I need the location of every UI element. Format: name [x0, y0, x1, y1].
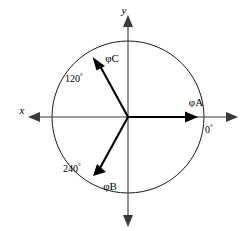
- phasor-phase-c-angle: 120°: [65, 72, 83, 84]
- degree-symbol-c: °: [80, 72, 83, 80]
- y-axis-top-arrowhead: [123, 15, 133, 27]
- x-axis-left-arrowhead: [28, 112, 40, 122]
- phasor-phase-b-label: φB: [103, 180, 117, 192]
- x-axis-right-arrowhead: [226, 112, 238, 122]
- phasor-phase-b-angle-value: 240: [63, 163, 78, 174]
- degree-symbol-b: °: [78, 162, 81, 170]
- phasor-phase-c-line: [100, 65, 129, 117]
- phasor-diagram: x y φA 0° φC 120° φB 240°: [0, 0, 240, 231]
- phasor-phase-a: φA 0°: [128, 96, 213, 135]
- phasor-phase-c: φC 120°: [65, 52, 128, 117]
- phasor-phase-c-angle-value: 120: [65, 73, 80, 84]
- y-axis-bottom-arrowhead: [123, 215, 133, 227]
- phasor-phase-a-angle: 0°: [205, 123, 213, 135]
- y-axis-label: y: [121, 4, 127, 16]
- phasor-phase-b-angle: 240°: [63, 162, 81, 174]
- phasor-phase-b-line: [100, 117, 128, 168]
- phasor-phase-b: φB 240°: [63, 117, 128, 192]
- phasor-phase-a-arrowhead: [185, 112, 198, 123]
- phasor-phase-c-arrowhead: [93, 57, 106, 71]
- y-axis: [123, 15, 133, 227]
- phasor-phase-b-arrowhead: [93, 164, 106, 176]
- x-axis-label: x: [19, 104, 25, 116]
- phasor-phase-c-label: φC: [105, 52, 119, 64]
- phasor-phase-a-label: φA: [189, 96, 203, 108]
- degree-symbol-a: °: [210, 123, 213, 131]
